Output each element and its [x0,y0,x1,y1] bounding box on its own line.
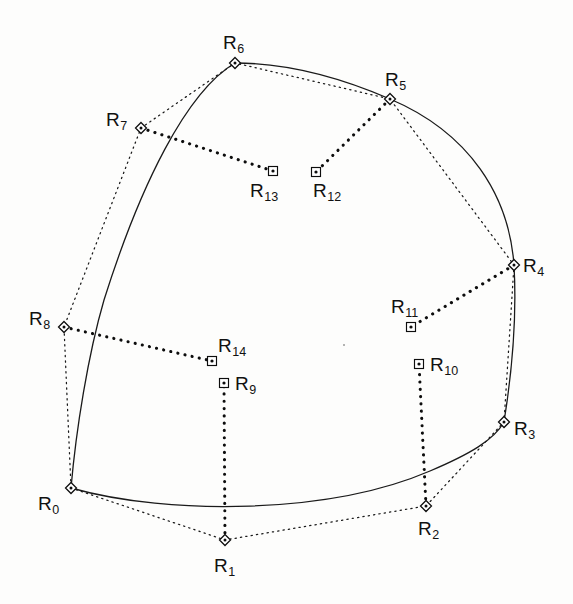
point-label-r8: R8 [29,309,50,328]
diagram-svg [0,0,573,604]
point-label-r5: R5 [385,70,406,89]
point-label-r14: R14 [218,336,246,355]
dotted-spokes [64,99,514,540]
point-label-r7: R7 [106,110,127,129]
point-label-r11: R11 [391,297,418,316]
boundary-node-markers [59,58,520,546]
spoke-r7-r13 [141,128,273,171]
point-label-r13: R13 [250,181,278,200]
point-label-r9: R9 [235,374,256,393]
scan-speck [343,344,345,346]
point-label-r0: R0 [38,494,59,513]
point-label-r2: R2 [418,519,439,538]
point-label-r6: R6 [223,33,244,52]
point-label-r12: R12 [313,181,341,200]
spoke-r5-r12 [316,99,390,172]
point-label-r1: R1 [214,556,235,575]
spoke-r4-r11 [411,265,514,327]
spoke-r2-r10 [419,364,426,506]
point-label-r10: R10 [430,355,458,374]
point-label-r3: R3 [514,419,535,438]
dotted-polygon [64,63,514,540]
spoke-r1-r9 [224,383,225,540]
point-label-r4: R4 [523,256,544,275]
figure-canvas: R0 R1 R2 R3 R4 R5 R6 R7 R8 R9 R10 R11 R1… [0,0,573,604]
spoke-r8-r14 [64,327,212,361]
